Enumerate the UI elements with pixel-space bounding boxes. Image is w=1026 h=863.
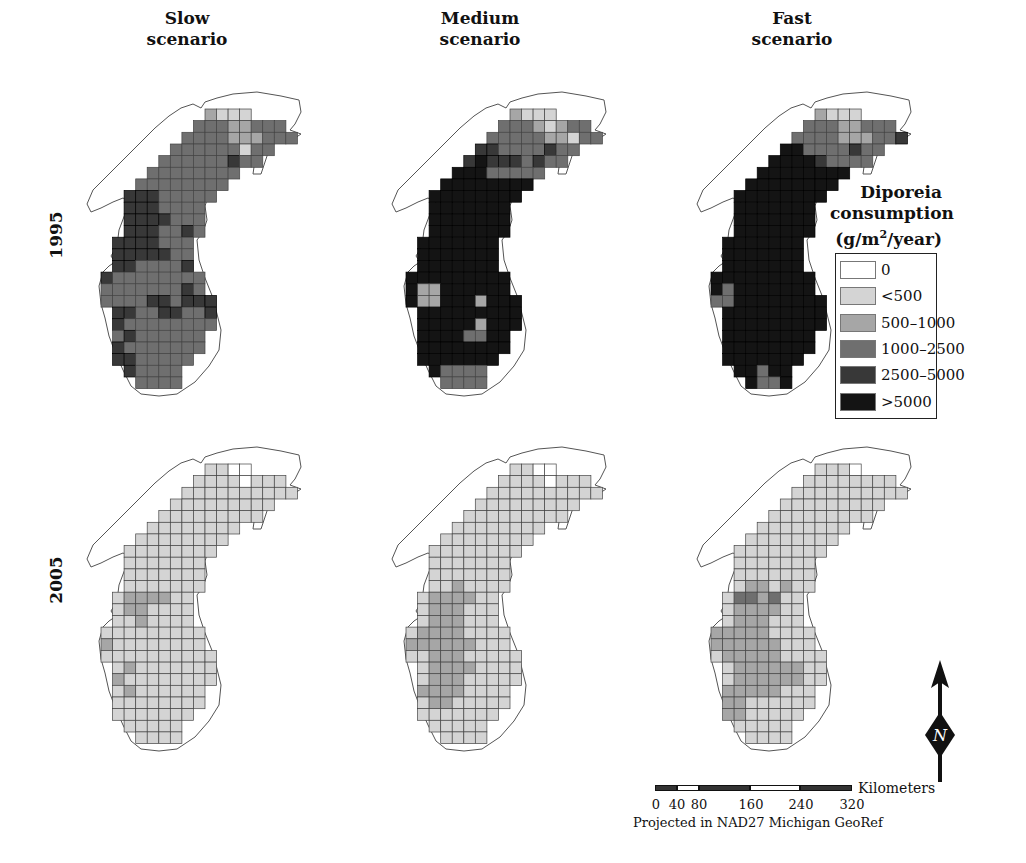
grid-cell [193,202,205,214]
grid-cell [510,522,522,534]
grid-cell [159,156,171,168]
grid-cell [464,685,476,697]
grid-cell [263,499,275,511]
grid-cell [147,732,159,744]
grid-cell [780,214,792,226]
grid-cell [734,202,746,214]
grid-cell [803,476,815,488]
grid-cell [757,639,769,651]
grid-cell [746,639,758,651]
grid-cell [182,167,194,179]
grid-cell [487,616,499,628]
grid-cell [803,697,815,709]
grid-cell [734,569,746,581]
grid-cell [769,616,781,628]
grid-cell [124,237,136,249]
grid-cell [418,604,430,616]
grid-cell [429,557,441,569]
grid-cell [429,720,441,732]
grid-cell [441,307,453,319]
grid-cell [113,319,125,331]
grid-cell [101,650,113,662]
grid-cell [193,307,205,319]
grid-cell [757,365,769,377]
grid-cell [498,307,510,319]
grid-cell [746,226,758,238]
grid-cell [510,156,522,168]
grid-cell [182,557,194,569]
grid-cell [182,674,194,686]
grid-cell [522,132,534,144]
grid-cell [769,214,781,226]
grid-cell [429,592,441,604]
grid-cell [757,720,769,732]
grid-cell [452,697,464,709]
grid-cell [464,604,476,616]
grid-cell [757,354,769,366]
grid-cell [838,109,850,121]
legend-label: 500–1000 [881,314,955,332]
grid-cell [170,557,182,569]
grid-cell [475,144,487,156]
grid-cell [228,167,240,179]
grid-cell [746,662,758,674]
grid-cell [746,685,758,697]
grid-cell [780,354,792,366]
grid-cell [746,592,758,604]
grid-cell [147,720,159,732]
grid-cell [803,685,815,697]
legend-label: 2500–5000 [881,366,965,384]
grid-cell [452,557,464,569]
grid-cell [429,569,441,581]
grid-cell [240,464,252,476]
grid-cell [441,295,453,307]
grid-cell [815,511,827,523]
grid-cell [746,179,758,191]
grid-cell [873,476,885,488]
grid-cell [136,616,148,628]
grid-cell [792,156,804,168]
grid-cell [205,121,217,133]
grid-cell [429,330,441,342]
grid-cell [113,662,125,674]
grid-cell [769,546,781,558]
grid-cell [136,674,148,686]
grid-cell [746,604,758,616]
grid-cell [418,674,430,686]
grid-cell [136,330,148,342]
grid-cell [475,330,487,342]
grid-cell [182,650,194,662]
grid-cell [792,354,804,366]
grid-cell [170,627,182,639]
grid-cell [723,249,735,261]
grid-cell [792,569,804,581]
grid-cell [147,522,159,534]
grid-cell [827,487,839,499]
grid-cell [498,650,510,662]
grid-cell [147,697,159,709]
grid-cell [815,109,827,121]
grid-cell [240,109,252,121]
grid-cell [487,237,499,249]
grid-cell [723,697,735,709]
grid-cell [475,639,487,651]
grid-cell [286,487,298,499]
grid-cell [136,249,148,261]
grid-cell [475,650,487,662]
grid-cell [205,662,217,674]
grid-cell [734,674,746,686]
grid-cell [113,697,125,709]
grid-cell [205,464,217,476]
grid-cell [429,214,441,226]
grid-cell [522,487,534,499]
grid-cell [182,156,194,168]
grid-cell [757,569,769,581]
grid-cell [827,534,839,546]
grid-cell [487,226,499,238]
grid-cell [533,109,545,121]
grid-cell [136,214,148,226]
grid-cell [475,662,487,674]
grid-cell [170,639,182,651]
grid-cell [170,534,182,546]
grid-cell [780,144,792,156]
